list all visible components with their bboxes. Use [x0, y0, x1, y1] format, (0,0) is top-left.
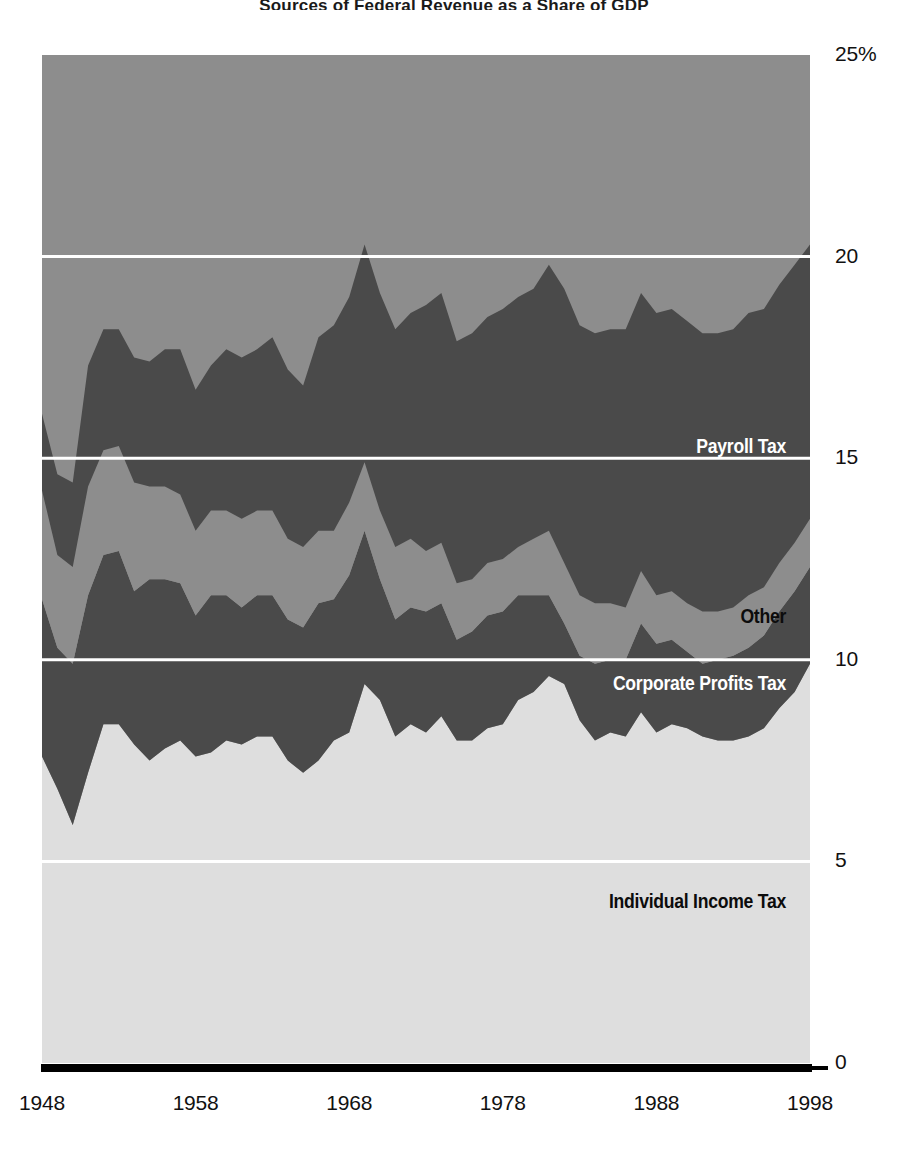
y-tick-5: 5	[835, 848, 846, 872]
series-label-corporate-profits-tax: Corporate Profits Tax	[94, 672, 786, 695]
y-tick-25: 25%	[835, 42, 876, 66]
series-label-individual-income-tax: Individual Income Tax	[94, 890, 786, 913]
x-tick-1988: 1988	[601, 1091, 711, 1115]
chart-container: Sources of Federal Revenue as a Share of…	[0, 0, 908, 1168]
series-label-other: Other	[94, 605, 786, 628]
x-tick-1958: 1958	[141, 1091, 251, 1115]
y-tick-15: 15	[835, 445, 858, 469]
x-tick-1948: 1948	[0, 1091, 97, 1115]
stacked-area-plot	[0, 0, 908, 1168]
series-label-payroll-tax: Payroll Tax	[94, 435, 786, 458]
x-tick-1998: 1998	[755, 1091, 865, 1115]
y-tick-0: 0	[835, 1050, 846, 1074]
y-tick-10: 10	[835, 647, 858, 671]
x-tick-1968: 1968	[294, 1091, 404, 1115]
y-tick-20: 20	[835, 244, 858, 268]
x-tick-1978: 1978	[448, 1091, 558, 1115]
